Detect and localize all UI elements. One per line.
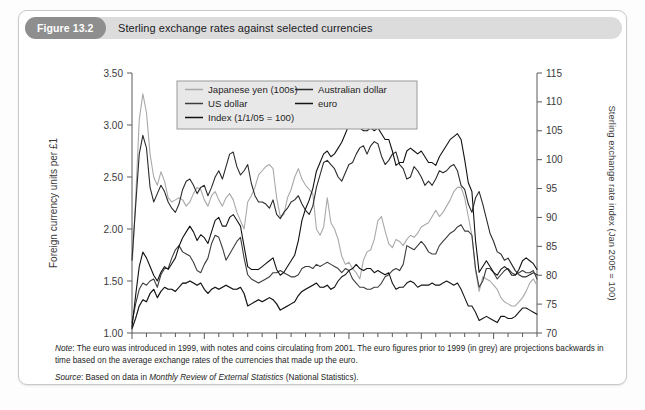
- figure-notes: Note: The euro was introduced in 1999, w…: [19, 343, 626, 384]
- y-axis-label-left: Foreign currency units per £1: [48, 138, 59, 269]
- series-line: [132, 135, 537, 276]
- figure-title: Sterling exchange rates against selected…: [118, 17, 372, 39]
- y-tick-label-right: 115: [546, 68, 562, 79]
- figure-number-badge: Figure 13.2: [25, 17, 106, 39]
- exchange-rate-line-chart: 1.001.502.002.503.003.50Foreign currency…: [19, 41, 626, 341]
- y-tick-label-right: 110: [546, 96, 562, 107]
- legend-label: Australian dollar: [318, 84, 388, 95]
- series-line: [132, 125, 537, 327]
- legend-label: Japanese yen (100s): [208, 84, 298, 95]
- y-tick-label-right: 70: [546, 328, 558, 339]
- legend-label: euro: [318, 98, 337, 109]
- figure-card: Figure 13.2 Sterling exchange rates agai…: [18, 10, 627, 385]
- y-tick-label-left: 3.00: [104, 120, 124, 131]
- y-tick-label-left: 1.00: [104, 328, 124, 339]
- y-tick-label-left: 2.00: [104, 224, 124, 235]
- source-publication: Monthly Review of External Statistics: [149, 373, 283, 382]
- y-tick-label-right: 85: [546, 241, 558, 252]
- source-label: Source: [55, 373, 81, 382]
- y-tick-label-left: 3.50: [104, 68, 124, 79]
- legend-label: Index (1/1/05 = 100): [208, 112, 294, 123]
- y-tick-label-right: 95: [546, 183, 558, 194]
- series-line: [132, 225, 537, 323]
- source-paragraph: Source: Based on data in Monthly Review …: [19, 372, 626, 384]
- note-body: : The euro was introduced in 1999, with …: [55, 344, 604, 365]
- y-axis-label-right: Sterling exchange rate index (Jan 2005 =…: [607, 105, 618, 300]
- y-tick-label-left: 2.50: [104, 172, 124, 183]
- series-line: [132, 281, 335, 329]
- source-post: (National Statistics).: [283, 373, 358, 382]
- chart-plot-area: 1.001.502.002.503.003.50Foreign currency…: [19, 41, 626, 341]
- source-pre: : Based on data in: [81, 373, 149, 382]
- y-tick-label-right: 105: [546, 125, 563, 136]
- y-tick-label-right: 90: [546, 212, 558, 223]
- note-paragraph: Note: The euro was introduced in 1999, w…: [19, 343, 626, 366]
- y-tick-label-right: 75: [546, 299, 558, 310]
- y-tick-label-left: 1.50: [104, 276, 124, 287]
- figure-header: Figure 13.2 Sterling exchange rates agai…: [25, 17, 622, 39]
- legend-label: US dollar: [208, 98, 248, 109]
- y-tick-label-right: 80: [546, 270, 558, 281]
- y-tick-label-right: 100: [546, 154, 563, 165]
- note-label: Note: [55, 344, 72, 353]
